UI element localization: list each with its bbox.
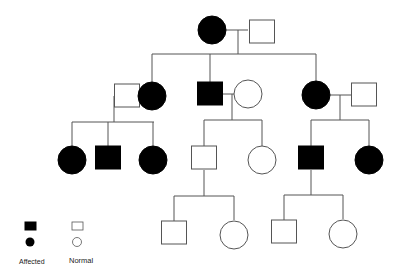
normal-female-circle-icon [329, 220, 357, 248]
legend-affected-female-icon [26, 238, 35, 247]
connector-lines [72, 30, 369, 222]
affected-male-square-icon [96, 146, 121, 169]
normal-male-square-icon [250, 20, 275, 43]
affected-female-circle-icon [355, 146, 383, 174]
legend-affected-male-icon [25, 222, 36, 230]
legend-normal-male-icon [72, 222, 83, 230]
affected-female-circle-icon [302, 81, 330, 109]
normal-male-square-icon [115, 84, 140, 107]
affected-male-square-icon [198, 82, 223, 105]
affected-male-square-icon [299, 146, 324, 169]
normal-female-circle-icon [220, 221, 248, 249]
normal-male-square-icon [162, 221, 187, 244]
pedigree-diagram [0, 0, 400, 277]
legend-normal-label: Normal [69, 256, 93, 265]
affected-female-circle-icon [198, 16, 226, 44]
legend-normal-female-icon [73, 238, 82, 247]
affected-female-circle-icon [58, 146, 86, 174]
normal-male-square-icon [272, 220, 297, 243]
affected-female-circle-icon [139, 146, 167, 174]
normal-female-circle-icon [248, 146, 276, 174]
individuals [58, 16, 383, 249]
normal-female-circle-icon [234, 80, 262, 108]
normal-male-square-icon [192, 146, 217, 169]
affected-female-circle-icon [138, 82, 166, 110]
legend-affected-label: Affected [19, 258, 45, 265]
legend [25, 222, 83, 247]
normal-male-square-icon [352, 83, 377, 106]
